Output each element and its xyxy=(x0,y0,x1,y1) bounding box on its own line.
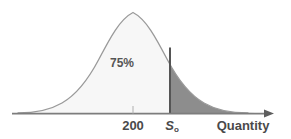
normal-distribution-figure: 75% 200 So Quantity xyxy=(0,0,291,139)
threshold-label-subscript: o xyxy=(174,125,179,134)
area-percentage-label: 75% xyxy=(110,57,134,69)
x-axis-arrow-icon xyxy=(264,110,274,118)
mean-tick-label: 200 xyxy=(122,119,144,132)
threshold-label-symbol: S xyxy=(165,118,174,133)
threshold-label: So xyxy=(165,119,179,132)
x-axis-title: Quantity xyxy=(217,119,270,132)
